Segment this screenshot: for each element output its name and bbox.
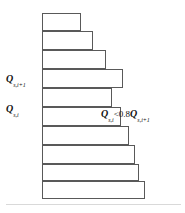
bar-10 xyxy=(42,181,145,199)
bar-8 xyxy=(42,145,135,164)
inequality-left-subscript: s,i xyxy=(108,117,114,123)
inequality-right-subscript: s,i+1 xyxy=(137,117,150,123)
label-q-s-i-plus-1: Qs,i+1 xyxy=(6,69,26,87)
bar-2 xyxy=(42,31,93,50)
bar-9 xyxy=(42,164,139,181)
bar-1 xyxy=(42,13,81,31)
label-q-s-i-subscript: s,i xyxy=(13,112,19,118)
bar-7 xyxy=(42,126,129,145)
label-q-s-i: Qs,i xyxy=(6,99,19,117)
label-inequality: Qs,i<0.8Qs,i+1 xyxy=(101,104,150,122)
inequality-coefficient: 0.8 xyxy=(119,109,130,119)
bar-4 xyxy=(42,69,123,88)
stepped-bar-diagram: Qs,i+1 Qs,i Qs,i<0.8Qs,i+1 xyxy=(0,0,185,213)
label-q-s-i-plus-1-subscript: s,i+1 xyxy=(13,82,26,88)
bar-3 xyxy=(42,50,106,69)
baseline-rule xyxy=(6,204,181,205)
